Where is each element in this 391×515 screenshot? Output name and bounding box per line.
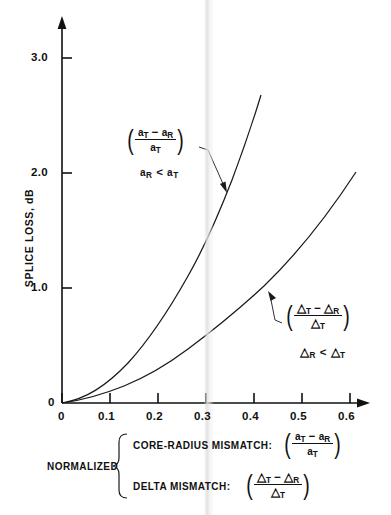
legend-row-0-label: CORE-RADIUS MISMATCH: (133, 440, 272, 451)
paren-close-core-radius: ) (177, 129, 183, 152)
condition-delta-sub-R: R (310, 351, 316, 360)
leader-arrowhead-delta (268, 291, 276, 301)
legend-numerator-delta-sub-R: R (293, 476, 299, 485)
fraction-core-radius: aT − aRaT (135, 126, 176, 154)
fraction-denominator-delta: △T (294, 316, 342, 329)
fraction-delta: △T − △R△T (294, 302, 342, 330)
y-tick-label-3: 3.0 (31, 51, 48, 63)
y-axis (58, 16, 72, 403)
leader-line-delta (271, 300, 282, 323)
x-tick-label-0-6: 0.6 (338, 410, 355, 422)
numerator-minus: − (152, 126, 159, 138)
condition-sub-R: R (146, 171, 152, 180)
annotation-core-radius-condition: aR < aT (140, 166, 179, 178)
legend-denominator-delta: △T (254, 485, 302, 498)
legend-paren-close-core-radius: ) (334, 433, 340, 456)
y-tick-label-1: 1.0 (31, 281, 48, 293)
legend-fraction-core-radius: aT − aRaT (292, 430, 333, 458)
denominator-delta: △ (311, 317, 320, 329)
legend-numerator-sub-T: T (301, 435, 306, 444)
annotation-core-radius-formula: (aT − aRaT) (126, 126, 185, 154)
legend-numerator-sub-R: R (324, 435, 330, 444)
legend-numerator-delta-receive: △ (284, 471, 293, 483)
y-tick-label-2: 2.0 (31, 166, 48, 178)
legend-row-1-label: DELTA MISMATCH: (133, 481, 230, 492)
numerator-delta-receive: △ (324, 302, 333, 314)
x-tick-label-0-5: 0.5 (290, 410, 307, 422)
legend-numerator-delta-sub-T: T (266, 476, 271, 485)
x-tick-label-0-4: 0.4 (242, 410, 259, 422)
legend-denominator-core-radius: aT (292, 444, 333, 457)
x-tick-label-0-3: 0.3 (194, 410, 211, 422)
condition-delta-sub-T: T (340, 351, 346, 360)
curve-delta-mismatch (62, 172, 356, 403)
legend-row-1-formula: (△T − △R△T) (245, 471, 311, 499)
numerator-sub-T: T (144, 131, 149, 140)
numerator-delta-minus: − (314, 302, 321, 314)
leader-core-radius (199, 147, 227, 193)
annotation-delta-condition: △R < △T (300, 345, 346, 359)
legend-denominator-sub-T: T (313, 450, 318, 459)
numerator-delta-transmit: △ (297, 302, 306, 314)
x-tick-label-0-2: 0.2 (146, 410, 163, 422)
numerator-delta-sub-T: T (306, 307, 311, 316)
legend-paren-close-delta: ) (303, 474, 309, 497)
legend-paren-open-core-radius: ( (284, 433, 290, 456)
leader-line-core-radius (199, 147, 224, 186)
legend-denominator-delta: △ (271, 486, 280, 498)
condition-sub-T: T (173, 171, 179, 180)
leader-arrowhead-core-radius (220, 182, 227, 194)
fraction-numerator-core-radius: aT − aR (135, 126, 176, 140)
legend-row-0-formula: (aT − aRaT) (283, 430, 342, 458)
splice-loss-figure: SPLICE LOSS, dB 3.0 2.0 1.0 0 0 0.1 0.2 … (0, 0, 391, 515)
legend-numerator-delta-minus: − (274, 471, 281, 483)
leader-delta (268, 291, 282, 323)
denominator-delta-sub-T: T (320, 322, 325, 331)
condition-delta-less-than: < (320, 346, 327, 358)
condition-delta-transmit: △ (331, 346, 341, 358)
numerator-sub-R: R (167, 131, 173, 140)
y-tick-label-0: 0 (48, 396, 55, 408)
x-axis (62, 393, 370, 407)
x-tick-label-0: 0 (58, 410, 65, 422)
y-axis-arrowhead (58, 16, 67, 29)
legend-numerator-delta: △T − △R (254, 471, 302, 485)
condition-delta-receive: △ (300, 346, 310, 358)
fraction-denominator-core-radius: aT (135, 140, 176, 153)
numerator-delta-sub-R: R (333, 307, 339, 316)
paren-close-delta: ) (343, 305, 349, 328)
annotation-delta-formula: (△T − △R△T) (285, 302, 351, 330)
paren-open-delta: ( (286, 305, 292, 328)
legend-numerator-a-transmit: a (295, 431, 301, 442)
legend-numerator-minus: − (309, 430, 316, 442)
condition-less-than: < (156, 166, 163, 178)
legend-denominator-delta-sub-T: T (280, 491, 285, 500)
fraction-numerator-delta: △T − △R (294, 302, 342, 316)
legend-fraction-delta: △T − △R△T (254, 471, 302, 499)
legend-numerator-delta-transmit: △ (257, 471, 266, 483)
legend-numerator-core-radius: aT − aR (292, 430, 333, 444)
paren-open-core-radius: ( (127, 129, 133, 152)
legend-group-label: NORMALIZED (47, 461, 118, 472)
legend-paren-open-delta: ( (246, 474, 252, 497)
numerator-a-transmit: a (138, 127, 144, 138)
denominator-sub-T: T (156, 146, 161, 155)
x-axis-arrowhead (357, 399, 370, 408)
x-tick-label-0-1: 0.1 (98, 410, 115, 422)
